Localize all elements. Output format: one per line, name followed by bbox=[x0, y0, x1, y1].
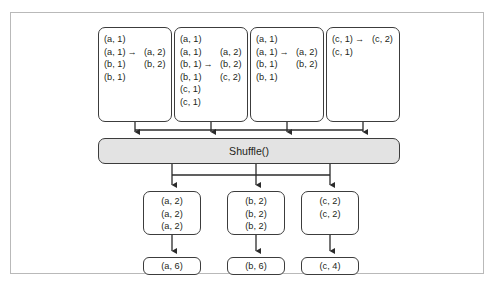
kv-row: (c, 2) bbox=[302, 195, 358, 208]
arrow-glyph: → bbox=[201, 58, 214, 71]
kv-left: (b, 1) bbox=[256, 58, 277, 71]
kv-right: (a, 2) bbox=[296, 46, 317, 59]
kv-left: (a, 1) bbox=[256, 46, 277, 59]
kv-row: (a, 2) bbox=[144, 220, 200, 233]
kv-row: (b, 1) bbox=[104, 71, 171, 84]
arrow-glyph: → bbox=[353, 33, 366, 46]
kv-left: (b, 1) bbox=[256, 71, 277, 84]
kv-row: (b, 2) bbox=[228, 208, 284, 221]
kv-left: (c, 1) bbox=[332, 46, 353, 59]
kv-left: (a, 1) bbox=[104, 46, 125, 59]
kv-row: (c, 1) bbox=[180, 83, 247, 96]
kv-row: (a, 2) bbox=[144, 195, 200, 208]
kv-left: (c, 1) bbox=[332, 33, 353, 46]
arrow-glyph: → bbox=[277, 46, 290, 59]
mapper-output-box-4: (c, 1)→(c, 2) (c, 1) bbox=[326, 27, 400, 122]
kv-row: (a, 1)→(a, 2) bbox=[104, 46, 171, 59]
reducer-input-box-a: (a, 2) (a, 2) (a, 2) bbox=[143, 191, 201, 235]
kv-left: (a, 1) bbox=[180, 46, 201, 59]
kv-left: (a, 1) bbox=[256, 33, 277, 46]
kv-row: (b, 1)→(b, 2) bbox=[180, 58, 247, 71]
kv-row: (b, 2) bbox=[228, 195, 284, 208]
final-output-label: (c, 4) bbox=[320, 260, 341, 273]
kv-left: (b, 1) bbox=[180, 71, 201, 84]
final-output-box-c: (c, 4) bbox=[301, 257, 359, 275]
reducer-input-box-c: (c, 2) (c, 2) bbox=[301, 191, 359, 235]
mapper-output-box-1: (a, 1) (a, 1)→(a, 2) (b, 1)(b, 2) (b, 1) bbox=[98, 27, 172, 122]
final-output-label: (a, 6) bbox=[161, 260, 182, 273]
kv-row: (a, 1) bbox=[180, 33, 247, 46]
kv-row: (a, 1)(a, 2) bbox=[180, 46, 247, 59]
kv-row: (c, 2) bbox=[302, 208, 358, 221]
kv-row: (b, 1)(c, 2) bbox=[180, 71, 247, 84]
mapper-output-box-3: (a, 1) (a, 1)→(a, 2) (b, 1)(b, 2) (b, 1) bbox=[250, 27, 324, 122]
kv-row: (a, 1) bbox=[104, 33, 171, 46]
final-output-box-a: (a, 6) bbox=[143, 257, 201, 275]
kv-row: (a, 2) bbox=[144, 208, 200, 221]
kv-right: (a, 2) bbox=[220, 46, 241, 59]
kv-right: (b, 2) bbox=[296, 58, 317, 71]
kv-right: (b, 2) bbox=[144, 58, 165, 71]
kv-row: (a, 1)→(a, 2) bbox=[256, 46, 323, 59]
mapreduce-shuffle-diagram: (a, 1) (a, 1)→(a, 2) (b, 1)(b, 2) (b, 1)… bbox=[10, 12, 484, 274]
kv-row: (c, 1) bbox=[180, 96, 247, 109]
kv-row: (b, 2) bbox=[228, 220, 284, 233]
kv-right: (c, 2) bbox=[372, 33, 393, 46]
kv-right: (c, 2) bbox=[220, 71, 241, 84]
kv-left: (a, 1) bbox=[104, 33, 125, 46]
final-output-box-b: (b, 6) bbox=[227, 257, 285, 275]
kv-row: (c, 1)→(c, 2) bbox=[332, 33, 399, 46]
kv-left: (b, 1) bbox=[104, 58, 125, 71]
kv-left: (b, 1) bbox=[104, 71, 125, 84]
reducer-input-box-b: (b, 2) (b, 2) (b, 2) bbox=[227, 191, 285, 235]
kv-row: (b, 1)(b, 2) bbox=[256, 58, 323, 71]
kv-right: (b, 2) bbox=[220, 58, 241, 71]
kv-row: (b, 1)(b, 2) bbox=[104, 58, 171, 71]
kv-left: (a, 1) bbox=[180, 33, 201, 46]
shuffle-label: Shuffle() bbox=[229, 145, 269, 157]
arrow-glyph: → bbox=[125, 46, 138, 59]
kv-left: (c, 1) bbox=[180, 96, 201, 109]
kv-row: (c, 1) bbox=[332, 46, 399, 59]
shuffle-stage: Shuffle() bbox=[98, 138, 400, 164]
kv-left: (b, 1) bbox=[180, 58, 201, 71]
final-output-label: (b, 6) bbox=[245, 260, 266, 273]
kv-left: (c, 1) bbox=[180, 83, 201, 96]
kv-row: (b, 1) bbox=[256, 71, 323, 84]
kv-right: (a, 2) bbox=[144, 46, 165, 59]
mapper-output-box-2: (a, 1) (a, 1)(a, 2) (b, 1)→(b, 2) (b, 1)… bbox=[174, 27, 248, 122]
kv-row: (a, 1) bbox=[256, 33, 323, 46]
